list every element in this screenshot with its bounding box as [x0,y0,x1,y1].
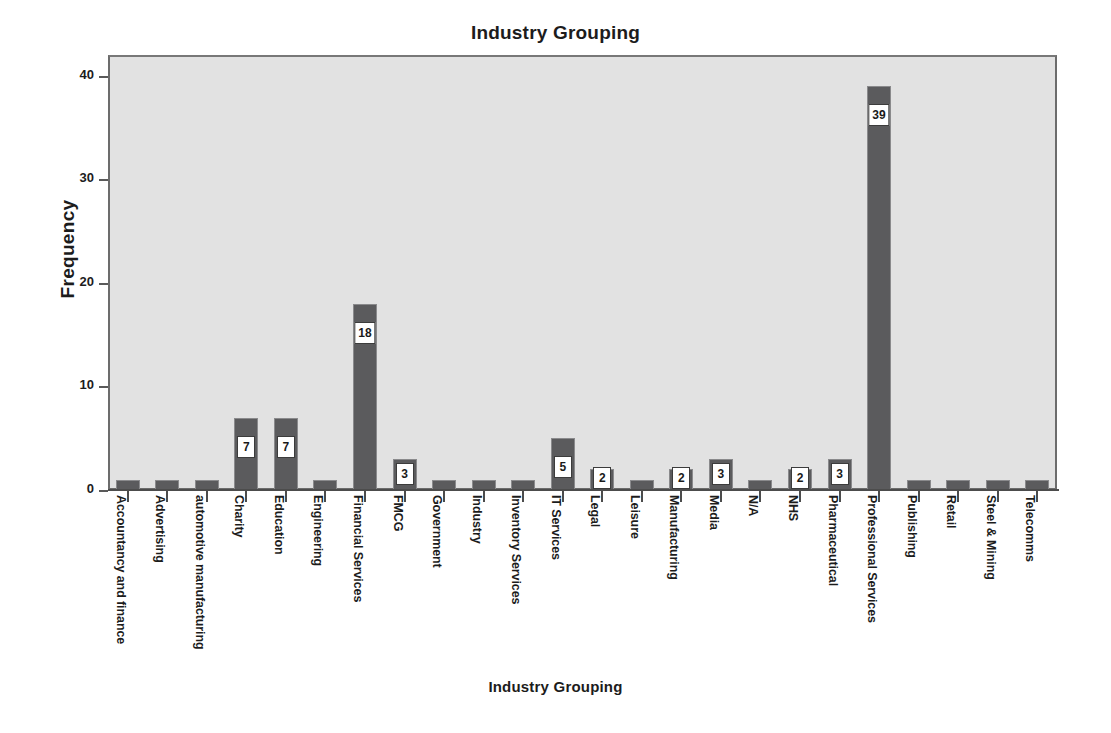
x-axis-tick-label: Professional Services [865,495,879,623]
bar-group[interactable] [741,55,781,490]
bar-group[interactable]: 7 [266,55,306,490]
x-axis-tick-label: Retail [944,495,958,528]
y-axis-tick-label: 20 [80,274,94,289]
y-axis-tick-label: 40 [80,67,94,82]
bar-value-label: 18 [354,322,375,344]
x-axis-title: Industry Grouping [0,678,1111,695]
x-axis-tick-label: Publishing [905,495,919,558]
chart-title: Industry Grouping [0,22,1111,44]
x-axis-tick-label: Legal [588,495,602,527]
bar-group[interactable] [1017,55,1057,490]
x-axis-tick-label: Manufacturing [667,495,681,580]
y-axis-title: Frequency [57,169,79,329]
bar-group[interactable] [938,55,978,490]
y-axis-tick: 0 [0,490,108,491]
y-axis-tick: 10 [0,386,108,387]
bar-group[interactable] [503,55,543,490]
x-axis-tick-label: Telecomms [1023,495,1037,562]
bar-chart: Industry Grouping Frequency 010203040 77… [0,0,1111,733]
bar-group[interactable]: 2 [583,55,623,490]
y-axis-tick-mark [99,76,108,78]
bar-group[interactable]: 3 [385,55,425,490]
bar-value-label: 3 [831,463,849,485]
bar-group[interactable]: 3 [701,55,741,490]
bar-group[interactable] [899,55,939,490]
x-axis-tick-label: Inventory Services [509,495,523,604]
x-axis-tick-label: Steel & Mining [984,495,998,580]
bar-value-label: 7 [277,436,295,458]
bar-group[interactable]: 7 [227,55,267,490]
bar-group[interactable]: 2 [780,55,820,490]
bar-group[interactable]: 3 [820,55,860,490]
x-axis-tick-label: Accountancy and finance [114,495,128,644]
y-axis-tick: 20 [0,283,108,284]
bar-group[interactable]: 39 [859,55,899,490]
x-axis-ticks: Accountancy and financeAdvertisingautomo… [108,491,1057,691]
bar-group[interactable] [622,55,662,490]
bar-group[interactable] [306,55,346,490]
x-axis-tick-label: NHS [786,495,800,521]
bar-group[interactable] [108,55,148,490]
bar-group[interactable]: 2 [662,55,702,490]
x-axis-tick-label: Education [272,495,286,555]
y-axis-tick-label: 0 [87,481,94,496]
y-axis-tick: 30 [0,179,108,180]
bar-value-label: 3 [396,463,414,485]
x-axis-tick-label: Advertising [153,495,167,563]
bar-group[interactable] [424,55,464,490]
y-axis-tick-mark [99,490,108,492]
bar-value-label: 39 [868,104,889,126]
bar-value-label: 7 [237,436,255,458]
x-axis-tick-label: Engineering [311,495,325,566]
x-axis-tick-label: Government [430,495,444,568]
bar-value-label: 2 [593,467,611,489]
x-axis-tick-label: N/A [746,495,760,516]
x-axis-tick-label: Financial Services [351,495,365,602]
y-axis-tick-label: 10 [80,377,94,392]
bar-group[interactable] [187,55,227,490]
x-axis-tick-label: IT Services [549,495,563,560]
y-axis-tick-mark [99,283,108,285]
y-axis-tick-label: 30 [80,170,94,185]
x-axis-tick-label: Industry [470,495,484,544]
bar-value-label: 5 [554,456,572,478]
x-axis-tick-label: Charity [232,495,246,537]
x-axis-tick-label: automotive manufacturing [193,495,207,650]
x-axis-tick-label: FMCG [391,495,405,531]
bars-layer: 7718352232339 [108,55,1057,490]
y-axis-tick-mark [99,386,108,388]
bar-group[interactable]: 18 [345,55,385,490]
y-axis-tick: 40 [0,76,108,77]
bar-group[interactable] [978,55,1018,490]
bar-group[interactable] [464,55,504,490]
bar-group[interactable] [148,55,188,490]
bar-value-label: 2 [672,467,690,489]
bar-value-label: 3 [712,463,730,485]
x-axis-tick-label: Pharmaceutical [826,495,840,586]
bar-group[interactable]: 5 [543,55,583,490]
y-axis-tick-mark [99,179,108,181]
x-axis-tick-label: Media [707,495,721,530]
bar[interactable] [867,86,891,490]
x-axis-tick-label: Leisure [628,495,642,539]
bar-value-label: 2 [791,467,809,489]
